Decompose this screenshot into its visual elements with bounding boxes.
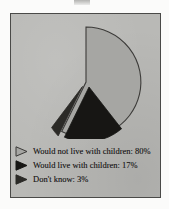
screenshot-root: Would not live with children: 80% Would … — [0, 0, 169, 209]
figure-frame: Would not live with children: 80% Would … — [10, 13, 161, 198]
pie-chart-svg — [11, 14, 160, 139]
legend-item-dont-know: Don't know: 3% — [15, 172, 88, 186]
legend-marker-would-live-triangle-icon — [15, 160, 28, 171]
pie-chart — [11, 14, 160, 139]
legend-label-would-live: Would live with children: 17% — [33, 160, 138, 170]
chart-legend: Would not live with children: 80% Would … — [11, 143, 160, 197]
legend-label-would-not-live: Would not live with children: 80% — [33, 146, 151, 156]
legend-label-dont-know: Don't know: 3% — [33, 174, 88, 184]
legend-marker-would-not-live-triangle-icon — [15, 146, 28, 157]
scan-artifact — [74, 0, 90, 5]
legend-marker-dont-know-triangle-icon — [15, 174, 28, 185]
legend-item-would-live: Would live with children: 17% — [15, 158, 138, 172]
legend-item-would-not-live: Would not live with children: 80% — [15, 144, 151, 158]
